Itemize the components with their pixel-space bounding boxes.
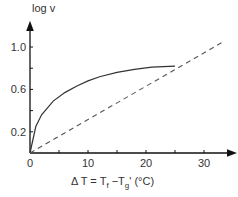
x-label-prefix: Δ T = T bbox=[71, 175, 106, 187]
dashed-line bbox=[30, 43, 221, 153]
svg-text:0: 0 bbox=[27, 157, 33, 169]
svg-text:0.6: 0.6 bbox=[11, 83, 26, 95]
svg-text:20: 20 bbox=[140, 157, 152, 169]
solid-curve bbox=[30, 66, 175, 153]
svg-text:1.0: 1.0 bbox=[11, 41, 26, 53]
tick-labels: 01020300.20.61.0 bbox=[11, 41, 210, 169]
axis-ticks bbox=[30, 47, 204, 153]
y-axis-label: log v bbox=[32, 2, 55, 14]
x-axis-label: Δ T = Tf −Tg' (°C) bbox=[71, 175, 154, 190]
svg-text:10: 10 bbox=[82, 157, 94, 169]
chart-canvas: 01020300.20.61.0 bbox=[0, 0, 238, 197]
svg-text:30: 30 bbox=[198, 157, 210, 169]
svg-text:0.2: 0.2 bbox=[11, 126, 26, 138]
x-label-suffix: ' (°C) bbox=[129, 175, 154, 187]
x-label-mid: −T bbox=[109, 175, 125, 187]
